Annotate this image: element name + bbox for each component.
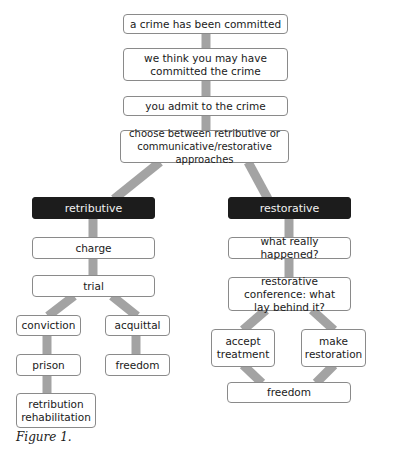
node-what-really-happened: what really happened? <box>228 237 351 259</box>
flowchart-diagram: a crime has been committed we think you … <box>0 0 395 458</box>
node-admit: you admit to the crime <box>123 96 288 116</box>
node-prison: prison <box>16 354 81 376</box>
node-make-restoration: make restoration <box>301 329 366 367</box>
connector-accept-freedom <box>243 365 262 383</box>
node-acquittal: acquittal <box>105 315 170 336</box>
category-retributive: retributive <box>32 197 155 219</box>
node-charge: charge <box>32 237 155 259</box>
figure-caption: Figure 1. <box>16 430 72 444</box>
connector-choose-restorative <box>248 162 268 199</box>
connector-trial-acquittal <box>112 296 137 316</box>
node-suspect: we think you may have committed the crim… <box>123 48 288 81</box>
connector-trial-conviction <box>48 296 74 316</box>
connector-make-freedom <box>316 365 334 383</box>
connector-choose-retributive <box>114 162 160 199</box>
node-choose-approach: choose between retributive or communicat… <box>120 130 289 163</box>
node-accept-treatment: accept treatment <box>211 329 275 367</box>
node-retribution-rehabilitation: retribution rehabilitation <box>16 393 96 428</box>
node-freedom-acquitted: freedom <box>105 354 170 376</box>
node-crime-committed: a crime has been committed <box>123 14 288 34</box>
node-conviction: conviction <box>16 315 81 336</box>
category-restorative: restorative <box>228 197 351 219</box>
node-trial: trial <box>32 275 155 297</box>
node-restorative-conference: restorative conference: what lay behind … <box>228 277 351 311</box>
node-freedom-restored: freedom <box>227 382 351 403</box>
